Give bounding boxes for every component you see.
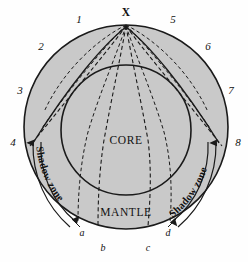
- surface-point-b: b: [101, 242, 106, 253]
- seismic-shadow-zone-figure: Shadow zone Shadow zone CORE MANTLE X 1 …: [0, 0, 248, 262]
- shadow-zone-tick-a: [72, 219, 80, 227]
- surface-point-a: a: [80, 227, 85, 238]
- figure-canvas: Shadow zone Shadow zone CORE MANTLE X 1 …: [0, 0, 248, 262]
- surface-point-d: d: [166, 227, 172, 238]
- ray-number-7: 7: [228, 84, 234, 96]
- ray-number-8: 8: [235, 136, 241, 148]
- mantle-label: MANTLE: [100, 206, 152, 218]
- source-label-x: X: [122, 6, 131, 18]
- ray-number-5: 5: [170, 13, 176, 25]
- ray-number-4: 4: [10, 136, 16, 148]
- core-label: CORE: [109, 134, 142, 146]
- ray-number-2: 2: [38, 40, 44, 52]
- ray-number-1: 1: [76, 13, 82, 25]
- ray-number-6: 6: [205, 40, 211, 52]
- surface-point-c: c: [146, 242, 151, 253]
- ray-number-3: 3: [16, 84, 23, 96]
